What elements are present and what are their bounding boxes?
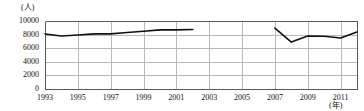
vertical-gridlines	[46, 21, 342, 89]
x-tick-label-1997: 1997	[96, 93, 126, 102]
x-tick-label-1999: 1999	[129, 93, 159, 102]
x-tick-label-2003: 2003	[194, 93, 224, 102]
x-tick-label-2009: 2009	[293, 93, 323, 102]
y-tick-label-6000: 6000	[9, 43, 39, 52]
x-tick-label-2011: 2011	[326, 93, 356, 102]
y-tick-label-10000: 10000	[9, 16, 39, 25]
x-tick-label-2007: 2007	[260, 93, 290, 102]
x-tick-label-1995: 1995	[63, 93, 93, 102]
y-tick-label-2000: 2000	[9, 70, 39, 79]
x-tick-label-1993: 1993	[30, 93, 60, 102]
line-chart: (人) (年) 0200040006000800010000 199319951…	[0, 0, 364, 111]
x-tick-label-2001: 2001	[161, 93, 191, 102]
x-tick-label-2005: 2005	[227, 93, 257, 102]
horizontal-gridlines	[45, 22, 357, 90]
data-line-segment-1	[45, 30, 193, 36]
y-tick-label-4000: 4000	[9, 57, 39, 66]
plot-frame	[46, 22, 358, 90]
y-tick-label-0: 0	[9, 84, 39, 93]
y-tick-label-8000: 8000	[9, 30, 39, 39]
